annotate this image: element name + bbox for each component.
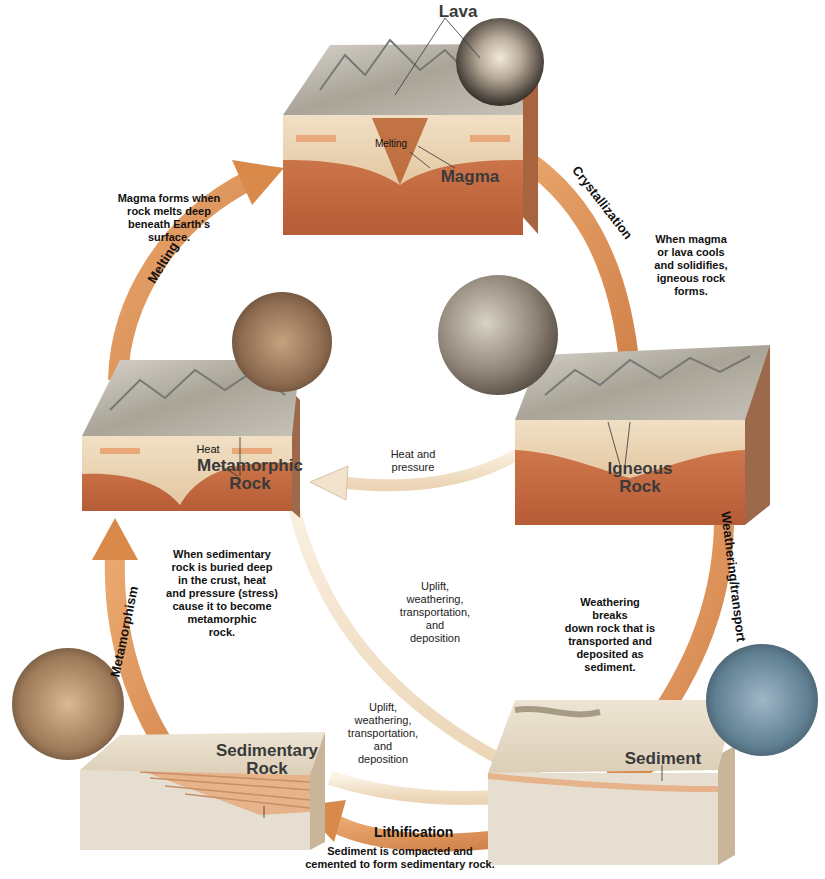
uplift-line: Uplift,	[390, 580, 480, 593]
caption-line: cemented to form sedimentary rock.	[300, 858, 500, 871]
metamorphic-photo	[232, 292, 332, 392]
sediment-block	[488, 700, 735, 865]
lava-label: Lava	[428, 3, 488, 21]
caption-line: Magma forms when	[110, 192, 228, 205]
caption-line: igneous rock	[646, 272, 736, 285]
caption-line: or lava cools	[646, 246, 736, 259]
caption-line: down rock that is	[562, 622, 658, 635]
caption-line: Weathering	[562, 596, 658, 609]
uplift-label-2: Uplift, weathering, transportation, and …	[338, 701, 428, 766]
heat-pressure-line: pressure	[368, 461, 458, 474]
caption-line: breaks	[562, 609, 658, 622]
caption-line: and solidifies,	[646, 259, 736, 272]
sedimentary-photo	[12, 648, 124, 760]
uplift-line: transportation,	[338, 727, 428, 740]
igneous-photo	[438, 275, 558, 395]
lava-photo	[456, 18, 544, 106]
heat-label: Heat	[188, 443, 228, 456]
magma-label: Magma	[430, 168, 510, 186]
uplift-line: transportation,	[390, 606, 480, 619]
caption-line: rock melts deep	[110, 205, 228, 218]
caption-line: When magma	[646, 233, 736, 246]
uplift-line: and	[390, 619, 480, 632]
caption-line: rock is buried deep	[160, 561, 284, 574]
igneous-label: Igneous	[600, 460, 680, 478]
lithification-caption: Sediment is compacted and cemented to fo…	[300, 845, 500, 871]
caption-line: metamorphic	[160, 613, 284, 626]
uplift-line: deposition	[338, 753, 428, 766]
metamorphism-caption: When sedimentary rock is buried deep in …	[160, 548, 284, 639]
crystallization-caption: When magma or lava cools and solidifies,…	[646, 233, 736, 298]
melting-caption: Magma forms when rock melts deep beneath…	[110, 192, 228, 244]
sediment-label: Sediment	[618, 750, 708, 768]
uplift-line: weathering,	[338, 714, 428, 727]
lithification-process-label: Lithification	[374, 826, 453, 839]
sediment-photo	[706, 644, 818, 756]
weathering-caption: Weathering breaks down rock that is tran…	[562, 596, 658, 674]
heat-pressure-label: Heat and pressure	[368, 448, 458, 474]
igneous-block	[515, 345, 770, 525]
uplift-line: weathering,	[390, 593, 480, 606]
uplift-label-1: Uplift, weathering, transportation, and …	[390, 580, 480, 645]
metamorphic-label: Metamorphic	[195, 457, 305, 475]
caption-line: in the crust, heat	[160, 574, 284, 587]
caption-line: sediment.	[562, 661, 658, 674]
igneous-rock-label: Rock	[605, 478, 675, 496]
caption-line: forms.	[646, 285, 736, 298]
rock-cycle-diagram: Lava Melting Magma Heat Metamorphic Rock…	[0, 0, 825, 879]
caption-line: cause it to become	[160, 600, 284, 613]
caption-line: beneath Earth's	[110, 218, 228, 231]
uplift-line: Uplift,	[338, 701, 428, 714]
caption-line: rock.	[160, 626, 284, 639]
heat-pressure-line: Heat and	[368, 448, 458, 461]
melting-label: Melting	[366, 137, 416, 150]
sedimentary-rock-label: Rock	[232, 760, 302, 778]
sedimentary-label: Sedimentary	[212, 742, 322, 760]
caption-line: Sediment is compacted and	[300, 845, 500, 858]
uplift-line: and	[338, 740, 428, 753]
caption-line: When sedimentary	[160, 548, 284, 561]
metamorphic-rock-label: Rock	[220, 475, 280, 493]
uplift-line: deposition	[390, 632, 480, 645]
caption-line: and pressure (stress)	[160, 587, 284, 600]
caption-line: transported and	[562, 635, 658, 648]
caption-line: surface.	[110, 231, 228, 244]
caption-line: deposited as	[562, 648, 658, 661]
